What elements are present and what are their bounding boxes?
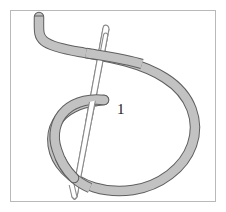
step-number-label: 1 xyxy=(117,101,125,117)
stitch-diagram-figure: 1 xyxy=(0,0,226,212)
stitch-diagram-canvas: 1 xyxy=(0,0,226,212)
